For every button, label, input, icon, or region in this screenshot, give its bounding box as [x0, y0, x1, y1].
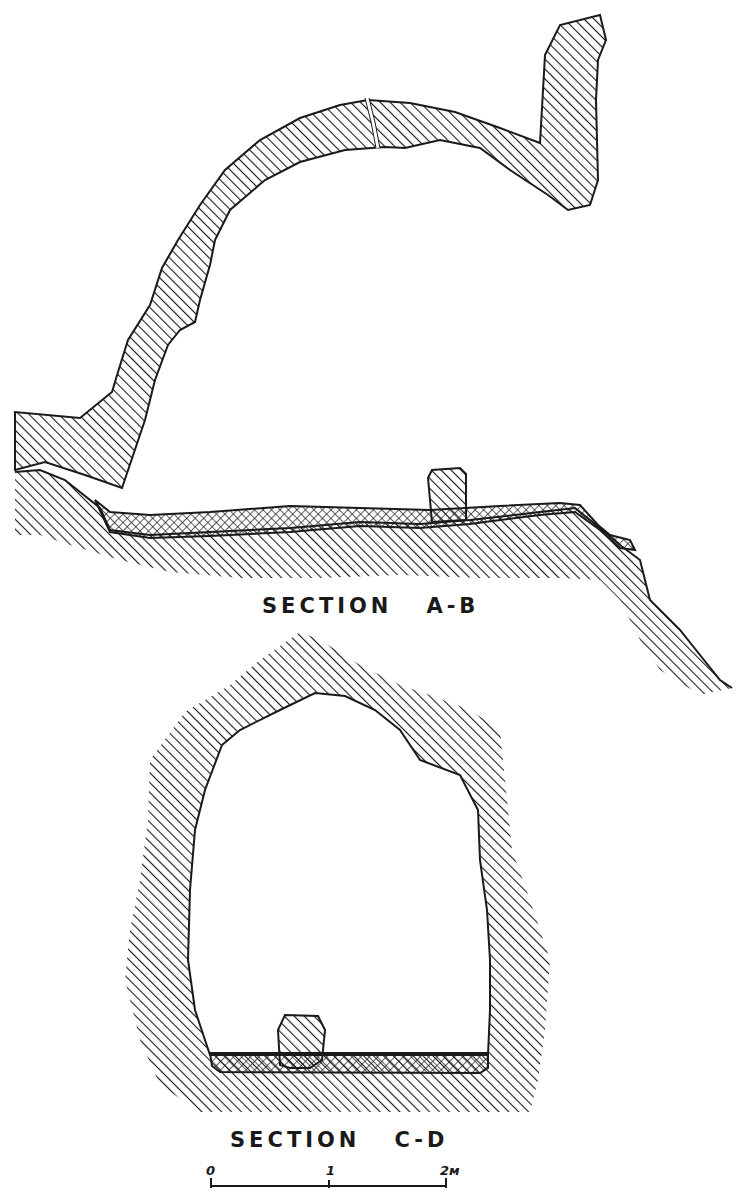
standing-stone-cd — [278, 1015, 325, 1068]
section-ab-label: SECTION A-B — [262, 594, 479, 618]
section-ab-drawing — [15, 15, 732, 695]
floor-rock — [15, 470, 732, 695]
section-cd-label: SECTION C-D — [230, 1128, 448, 1152]
scale-tick-2m: 2м — [440, 1163, 460, 1178]
roof-rock — [15, 15, 606, 488]
scale-tick-1: 1 — [326, 1163, 335, 1178]
section-cd-drawing — [125, 632, 550, 1112]
scale-tick-0: 0 — [206, 1163, 215, 1178]
scale-bar — [210, 1178, 447, 1188]
chamber-floor-deposit — [210, 1053, 488, 1073]
standing-stone-ab — [428, 468, 466, 522]
